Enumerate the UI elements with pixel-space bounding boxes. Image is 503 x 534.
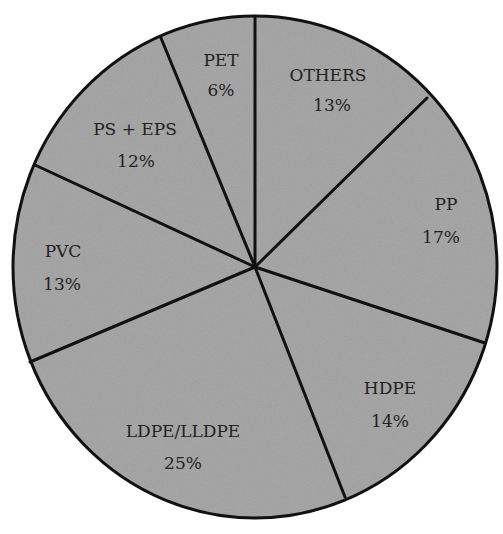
- slice-label: PVC: [45, 241, 82, 261]
- slice-label: LDPE/LLDPE: [126, 421, 241, 441]
- slice-value: 25%: [164, 453, 202, 473]
- slice-label: PP: [435, 194, 458, 214]
- pie-chart: PET 6% OTHERS 13% PS + EPS 12% PP 17% PV…: [0, 0, 503, 534]
- slice-value: 14%: [371, 411, 409, 431]
- slice-value: 13%: [43, 274, 81, 294]
- slice-value: 6%: [208, 80, 235, 100]
- slice-label: OTHERS: [290, 65, 367, 85]
- slice-value: 17%: [422, 227, 460, 247]
- slice-value: 13%: [313, 95, 351, 115]
- slice-value: 12%: [117, 151, 155, 171]
- slice-label: PS + EPS: [93, 119, 177, 139]
- slice-label: HDPE: [364, 378, 416, 398]
- slice-label: PET: [203, 50, 239, 70]
